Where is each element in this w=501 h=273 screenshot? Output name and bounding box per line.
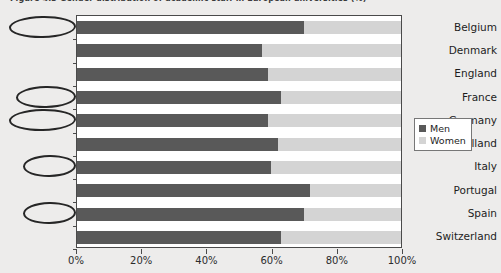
x-tick bbox=[337, 249, 338, 254]
bar-segment-women bbox=[268, 68, 401, 81]
bar-segment-men bbox=[77, 44, 262, 57]
figure-container: Figure 4.3 Gender distribution of academ… bbox=[0, 0, 501, 273]
x-tick bbox=[402, 249, 403, 254]
bar-segment-men bbox=[77, 21, 304, 34]
legend-item-men: Men bbox=[419, 123, 466, 134]
category-label-france: France bbox=[427, 91, 501, 103]
x-tick-label: 80% bbox=[326, 255, 348, 266]
category-tick bbox=[73, 202, 77, 203]
plot-area bbox=[76, 15, 402, 248]
legend-label: Women bbox=[430, 135, 466, 146]
bar-belgium bbox=[77, 21, 401, 34]
bar-germany bbox=[77, 114, 401, 127]
legend-swatch-men bbox=[419, 125, 426, 132]
bar-holland bbox=[77, 138, 401, 151]
bar-segment-women bbox=[310, 184, 401, 197]
x-tick-label: 60% bbox=[260, 255, 282, 266]
category-label-england: England bbox=[427, 67, 501, 79]
legend-items: MenWomen bbox=[419, 123, 466, 146]
bar-segment-men bbox=[77, 231, 281, 244]
bar-segment-men bbox=[77, 91, 281, 104]
bar-italy bbox=[77, 161, 401, 174]
bar-spain bbox=[77, 208, 401, 221]
bar-denmark bbox=[77, 44, 401, 57]
highlight-ellipse-spain bbox=[23, 201, 76, 224]
highlight-ellipse-italy bbox=[23, 155, 76, 178]
x-tick-label: 100% bbox=[388, 255, 417, 266]
x-tick bbox=[141, 249, 142, 254]
bar-switzerland bbox=[77, 231, 401, 244]
bar-france bbox=[77, 91, 401, 104]
x-tick-label: 40% bbox=[195, 255, 217, 266]
bar-segment-women bbox=[268, 114, 401, 127]
highlight-ellipse-france bbox=[16, 85, 77, 108]
bar-segment-men bbox=[77, 114, 268, 127]
bar-segment-women bbox=[281, 91, 401, 104]
category-tick bbox=[73, 63, 77, 64]
category-tick bbox=[73, 39, 77, 40]
legend-swatch-women bbox=[419, 137, 426, 144]
category-label-italy: Italy bbox=[427, 160, 501, 172]
x-tick-label: 20% bbox=[130, 255, 152, 266]
bar-segment-women bbox=[262, 44, 401, 57]
x-tick bbox=[76, 249, 77, 254]
highlight-ellipse-belgium bbox=[8, 15, 76, 38]
category-tick bbox=[73, 86, 77, 87]
bar-segment-men bbox=[77, 184, 310, 197]
legend-item-women: Women bbox=[419, 135, 466, 146]
x-tick bbox=[272, 249, 273, 254]
bar-segment-women bbox=[278, 138, 401, 151]
bar-portugal bbox=[77, 184, 401, 197]
category-label-belgium: Belgium bbox=[427, 21, 501, 33]
category-tick bbox=[73, 133, 77, 134]
category-tick bbox=[73, 156, 77, 157]
x-tick bbox=[206, 249, 207, 254]
category-tick bbox=[73, 179, 77, 180]
category-tick bbox=[73, 109, 77, 110]
figure-title: Figure 4.3 Gender distribution of academ… bbox=[10, 0, 366, 3]
x-tick-label: 0% bbox=[68, 255, 84, 266]
bars-layer bbox=[77, 16, 401, 247]
bar-segment-men bbox=[77, 208, 304, 221]
category-label-denmark: Denmark bbox=[427, 44, 501, 56]
bar-segment-men bbox=[77, 161, 271, 174]
bar-segment-women bbox=[304, 21, 401, 34]
bar-segment-women bbox=[281, 231, 401, 244]
legend-label: Men bbox=[430, 123, 450, 134]
bar-segment-women bbox=[271, 161, 401, 174]
legend: MenWomen bbox=[414, 118, 472, 151]
category-label-switzerland: Switzerland bbox=[427, 230, 501, 242]
category-label-spain: Spain bbox=[427, 207, 501, 219]
bar-segment-men bbox=[77, 68, 268, 81]
bar-segment-women bbox=[304, 208, 401, 221]
highlight-ellipse-germany bbox=[8, 108, 76, 131]
category-tick bbox=[73, 226, 77, 227]
bar-segment-men bbox=[77, 138, 278, 151]
bar-england bbox=[77, 68, 401, 81]
category-label-portugal: Portugal bbox=[427, 184, 501, 196]
